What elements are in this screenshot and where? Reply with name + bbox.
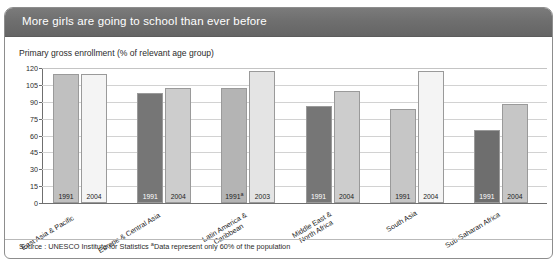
y-axis-tick-label: 30	[30, 165, 38, 174]
y-axis-tick-mark	[39, 85, 42, 86]
y-axis-tick-label: 45	[30, 148, 38, 157]
bar-year-label: 2004	[335, 192, 359, 201]
footnote-text: Data represent only 60% of the populatio…	[154, 242, 290, 251]
bar: 2004	[502, 104, 528, 203]
gridline	[42, 152, 547, 153]
chart-page: More girls are going to school than ever…	[0, 0, 559, 266]
bar: 2004	[81, 74, 107, 203]
bar: 2004	[165, 88, 191, 203]
bar-year-label: 1991	[391, 192, 415, 201]
bar-year-label: 2004	[166, 192, 190, 201]
y-axis-tick-label: 75	[30, 114, 38, 123]
bar-year-label: 2004	[419, 192, 443, 201]
gridline	[42, 85, 547, 86]
chart-subtitle: Primary gross enrollment (% of relevant …	[19, 48, 214, 58]
x-axis-category-line: Sub-Saharan Africa	[444, 211, 502, 250]
y-axis-tick-mark	[39, 136, 42, 137]
gridline	[42, 136, 547, 137]
bar-year-label: 1991	[307, 192, 331, 201]
bar: 1991	[306, 106, 332, 203]
plot-area: 0153045607590105120 19912004199120041991…	[42, 68, 547, 204]
y-axis-tick-mark	[39, 152, 42, 153]
bar: 1991	[390, 109, 416, 204]
bar-year-label: 1991	[54, 192, 78, 201]
bar: 1991a	[221, 88, 247, 203]
x-axis-category-label: Middle East &North Africa	[291, 210, 338, 247]
bar: 2004	[334, 91, 360, 204]
y-axis-tick-label: 105	[26, 80, 38, 89]
bar: 2004	[418, 71, 444, 203]
bar-year-label: 2004	[82, 192, 106, 201]
y-axis-tick-mark	[39, 68, 42, 69]
bar: 1991	[137, 93, 163, 203]
gridline	[42, 102, 547, 103]
chart-card: More girls are going to school than ever…	[4, 7, 553, 259]
bar-year-label: 1991	[138, 192, 162, 201]
source-text: Source : UNESCO Institute for Statistics	[19, 242, 151, 251]
x-axis-category-line: South Asia	[385, 210, 419, 235]
y-axis-tick-label: 0	[34, 199, 38, 208]
x-axis-line	[42, 203, 547, 204]
gridline	[42, 119, 547, 120]
bar: 1991	[53, 74, 79, 203]
y-axis-tick-mark	[39, 186, 42, 187]
card-header: More girls are going to school than ever…	[5, 8, 552, 37]
y-axis-tick-label: 90	[30, 97, 38, 106]
y-axis-tick-mark	[39, 102, 42, 103]
y-axis-tick-label: 60	[30, 131, 38, 140]
y-axis-tick-mark	[39, 119, 42, 120]
source-note: Source : UNESCO Institute for Statistics…	[19, 241, 290, 251]
page-title: More girls are going to school than ever…	[22, 15, 267, 27]
x-axis-category-label: Sub-Saharan Africa	[444, 211, 502, 250]
bar-year-label: 2004	[503, 192, 527, 201]
y-axis-tick-label: 15	[30, 182, 38, 191]
bar-year-label: 2003	[250, 192, 274, 201]
bar-year-label: 1991	[475, 192, 499, 201]
gridline	[42, 68, 547, 69]
bar: 1991	[474, 130, 500, 203]
bar-footnote-marker: a	[240, 191, 243, 197]
x-axis-category-label: South Asia	[385, 210, 419, 235]
gridline	[42, 169, 547, 170]
gridline	[42, 186, 547, 187]
bar-year-label: 1991a	[222, 190, 246, 201]
bar: 2003	[249, 71, 275, 203]
y-axis-tick-label: 120	[26, 64, 38, 73]
y-axis-tick-mark	[39, 169, 42, 170]
